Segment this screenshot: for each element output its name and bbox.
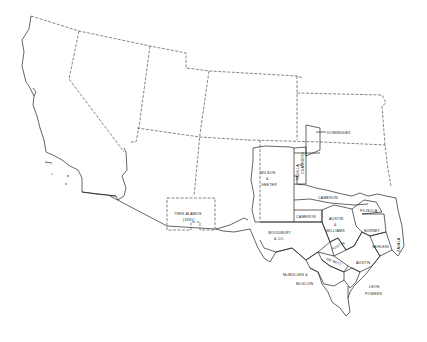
label-zavala: ZAVALA [397, 237, 401, 252]
label-mcmullen-1: McMULLEN & [283, 273, 308, 277]
label-woodbury-1: WOODBURY [268, 231, 292, 235]
label-geeter: GEETER [261, 183, 277, 187]
texas-grants [251, 125, 404, 298]
label-tres-alamos: TRES ALAMOS [174, 212, 202, 216]
state-boundaries [31, 16, 391, 220]
california-coast [22, 16, 127, 200]
label-filisola: FILISOLA [360, 209, 378, 213]
label-austin-williams-1: AUSTIN [329, 217, 344, 221]
label-austin-williams-3: WILLIAMS [326, 229, 345, 233]
label-tres-alamos-year: (1831) [183, 218, 195, 222]
label-powers: POWERS [365, 292, 383, 296]
southern-border [82, 192, 350, 316]
label-cameron-north: CAMERON [318, 196, 338, 200]
label-wilson-amp: & [266, 177, 269, 181]
label-austin-south: AUSTIN [356, 261, 371, 265]
label-wilson: WILSON [260, 171, 276, 175]
label-burnet: BURNET [364, 229, 381, 233]
label-chambers: CHAMBERS [301, 152, 305, 174]
label-mcmullen-2: McGLOIN [296, 282, 314, 286]
label-cameron-south: CAMERON [296, 215, 316, 219]
label-leon: LEON [369, 285, 380, 289]
label-vehlein: VEHLEIN [372, 245, 389, 249]
label-austin-williams-2: & [334, 223, 337, 227]
label-de-witt: DE WITT [326, 257, 343, 266]
label-woodbury-2: & CO. [274, 237, 285, 241]
label-dominguez: DOMINGUEZ [327, 131, 351, 135]
land-grant-map: WILSON & GEETER PADILLA & CHAMBERS DOMIN… [0, 0, 427, 342]
